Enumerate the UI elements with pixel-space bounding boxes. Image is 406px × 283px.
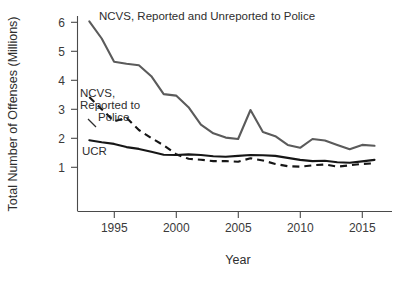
annotation-ncvs-reported-line1: NCVS, bbox=[80, 87, 115, 99]
y-tick-label-3: 3 bbox=[58, 103, 65, 117]
y-tick-label-2: 2 bbox=[58, 132, 65, 146]
annotation-ncvs-total: NCVS, Reported and Unreported to Police bbox=[99, 10, 315, 22]
y-tick-label-1: 1 bbox=[58, 161, 65, 175]
x-tick-label-1995: 1995 bbox=[101, 221, 128, 235]
chart-svg: 6 5 4 3 2 1 1995 2000 2005 2010 2015 Tot… bbox=[0, 0, 406, 283]
x-tick-label-2005: 2005 bbox=[225, 221, 252, 235]
series-line-ncvs-total bbox=[89, 21, 374, 149]
x-tick-label-2010: 2010 bbox=[287, 221, 314, 235]
annotation-ncvs-reported-line3: Police bbox=[98, 111, 129, 123]
x-axis-title: Year bbox=[225, 253, 250, 267]
annotation-ncvs-reported-line2: Reported to bbox=[80, 99, 140, 111]
x-tick-label-2015: 2015 bbox=[349, 221, 376, 235]
annotation-ucr: UCR bbox=[82, 145, 107, 157]
y-tick-label-4: 4 bbox=[58, 74, 65, 88]
crime-offenses-line-chart: 6 5 4 3 2 1 1995 2000 2005 2010 2015 Tot… bbox=[0, 0, 406, 283]
x-tick-label-2000: 2000 bbox=[163, 221, 190, 235]
annotation-leader-ncvs-reported bbox=[88, 119, 96, 127]
y-axis-title: Total Number of Offenses (Millions) bbox=[6, 17, 20, 212]
y-tick-label-5: 5 bbox=[58, 45, 65, 59]
y-tick-label-6: 6 bbox=[58, 16, 65, 30]
